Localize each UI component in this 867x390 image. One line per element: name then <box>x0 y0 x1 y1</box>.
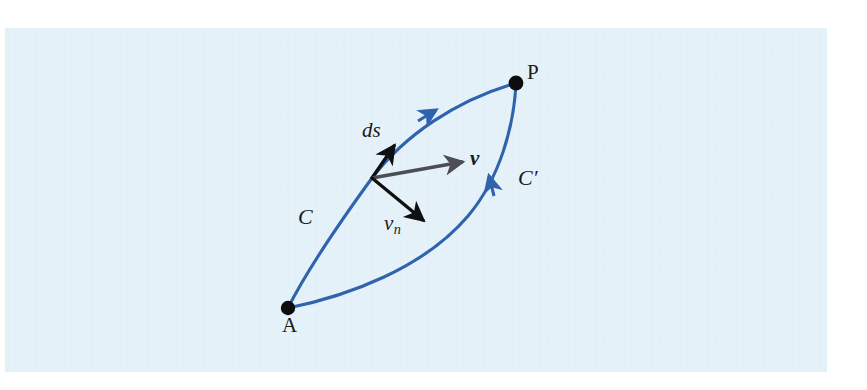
point-p-dot <box>509 76 524 91</box>
normal-velocity-base-text: v <box>384 211 393 235</box>
curve-c-direction-arrowhead <box>418 110 436 121</box>
velocity-vector-label: v <box>470 148 479 169</box>
velocity-vector-group <box>372 162 462 178</box>
velocity-vector-arrow <box>372 162 462 178</box>
normal-velocity-subscript: n <box>394 221 401 237</box>
figure-root: A P C C′ ds v vn <box>0 0 867 390</box>
normal-velocity-label: vn <box>384 213 401 236</box>
curve-c-prime-mark: ′ <box>533 165 538 190</box>
point-p-label: P <box>527 62 539 83</box>
curve-c-prime-group <box>288 83 516 308</box>
curve-c-prime-label: C′ <box>518 167 538 189</box>
curve-c-prime-base-text: C <box>518 165 533 190</box>
diagram-canvas <box>0 0 867 390</box>
curve-c-prime-path <box>288 83 516 308</box>
point-a-label: A <box>282 315 297 336</box>
arc-element-label: ds <box>362 120 381 141</box>
curve-c-label: C <box>298 206 313 228</box>
